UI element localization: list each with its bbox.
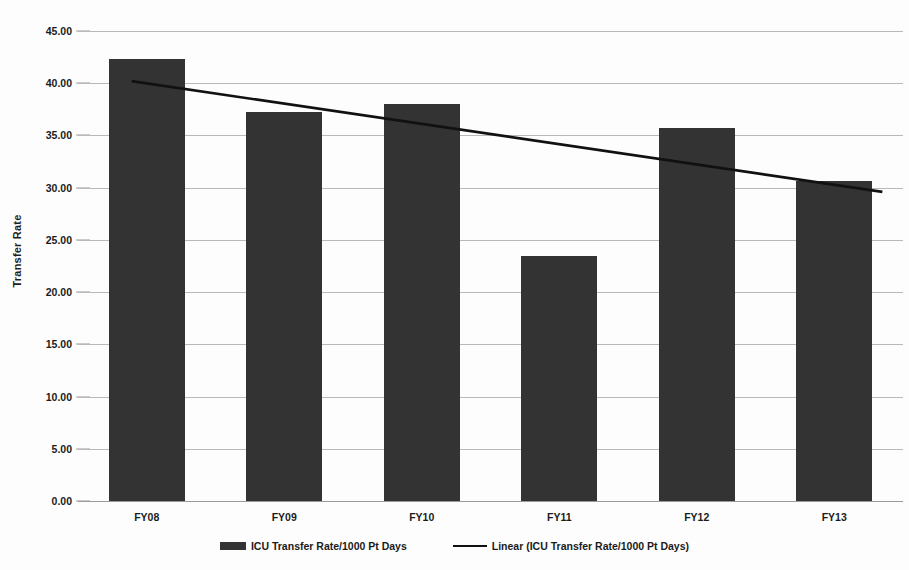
chart-legend: ICU Transfer Rate/1000 Pt Days Linear (I… bbox=[0, 540, 909, 552]
legend-label-trendline: Linear (ICU Transfer Rate/1000 Pt Days) bbox=[492, 540, 689, 552]
x-axis-tick-label: FY09 bbox=[272, 511, 297, 523]
y-axis-tick-label: 20.00 bbox=[24, 286, 72, 298]
x-axis-tick-label: FY11 bbox=[547, 511, 572, 523]
chart-container: Transfer Rate 45.0040.0035.0030.0025.002… bbox=[0, 0, 909, 570]
y-axis-tick-label: 45.00 bbox=[24, 25, 72, 37]
y-axis-tick-label: 10.00 bbox=[24, 391, 72, 403]
bar bbox=[109, 59, 185, 501]
y-axis-tick-label: 35.00 bbox=[24, 129, 72, 141]
y-axis-tick-label: 15.00 bbox=[24, 338, 72, 350]
legend-item-trendline: Linear (ICU Transfer Rate/1000 Pt Days) bbox=[453, 540, 689, 552]
bar bbox=[246, 112, 322, 501]
gridline bbox=[78, 501, 903, 502]
gridline bbox=[78, 188, 903, 189]
legend-label-bar: ICU Transfer Rate/1000 Pt Days bbox=[251, 540, 407, 552]
bar bbox=[659, 128, 735, 501]
x-axis-tick-label: FY10 bbox=[409, 511, 434, 523]
y-axis-tick-label: 40.00 bbox=[24, 77, 72, 89]
bar-swatch-icon bbox=[220, 542, 246, 550]
gridline bbox=[78, 240, 903, 241]
y-axis-tick-label: 5.00 bbox=[24, 443, 72, 455]
x-axis-tick-label: FY12 bbox=[684, 511, 709, 523]
y-axis-title-label: Transfer Rate bbox=[11, 214, 23, 287]
plot-area bbox=[78, 31, 903, 501]
linear-trendline bbox=[132, 81, 883, 192]
x-axis-tick-label: FY08 bbox=[134, 511, 159, 523]
y-axis-tick-label: 25.00 bbox=[24, 234, 72, 246]
gridline bbox=[78, 344, 903, 345]
x-axis-tick-label: FY13 bbox=[822, 511, 847, 523]
gridline bbox=[78, 135, 903, 136]
trendline-series bbox=[78, 31, 903, 501]
line-swatch-icon bbox=[453, 545, 487, 548]
y-axis-tick-label: 0.00 bbox=[24, 495, 72, 507]
gridline bbox=[78, 292, 903, 293]
bar bbox=[796, 181, 872, 501]
gridline bbox=[78, 449, 903, 450]
y-axis-tick-label: 30.00 bbox=[24, 182, 72, 194]
gridline bbox=[78, 397, 903, 398]
bar bbox=[384, 104, 460, 501]
y-axis-title: Transfer Rate bbox=[2, 0, 32, 501]
gridline bbox=[78, 83, 903, 84]
bar bbox=[521, 256, 597, 501]
legend-item-bar: ICU Transfer Rate/1000 Pt Days bbox=[220, 540, 407, 552]
gridline bbox=[78, 31, 903, 32]
